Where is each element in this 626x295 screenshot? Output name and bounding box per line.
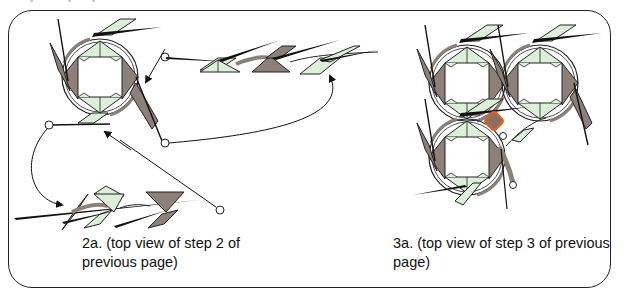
arrow — [169, 76, 333, 143]
ref-circle — [45, 121, 53, 129]
cropped-text-marks — [30, 0, 95, 2]
caption-2a-line-1: 2a. (top view of step 2 of — [82, 234, 282, 253]
ref-circle — [510, 182, 517, 189]
caption-2a: 2a. (top view of step 2 of previous page… — [82, 234, 282, 272]
ring-module-3a-bottom — [413, 99, 529, 209]
caption-3a-line-1: 3a. (top view of step 3 of previous — [393, 234, 613, 253]
ref-circle — [500, 133, 507, 140]
arrow — [146, 49, 165, 82]
caption-3a: 3a. (top view of step 3 of previous page… — [393, 234, 613, 272]
caption-3a-line-2: page) — [393, 253, 613, 272]
caption-2a-line-2: previous page) — [82, 253, 282, 272]
unit-strip-top — [166, 40, 378, 74]
ref-circle — [161, 139, 169, 147]
unit-strip-bottom — [14, 186, 200, 230]
ring-module-2a — [50, 19, 162, 141]
arrow — [31, 129, 62, 205]
ring-module-3a-top-right — [490, 25, 602, 145]
ref-circle — [216, 206, 224, 214]
arrow — [105, 132, 131, 150]
